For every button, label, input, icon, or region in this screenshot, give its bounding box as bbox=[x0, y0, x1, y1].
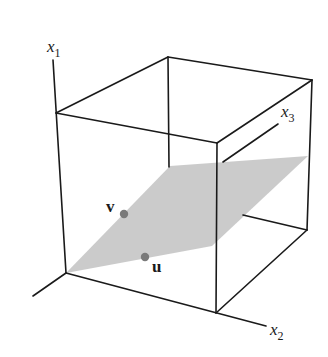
box-edge-top-left-back bbox=[56, 57, 168, 113]
box-edge-bottom-back-right bbox=[243, 215, 307, 230]
x3-label: x3 bbox=[280, 102, 295, 125]
box-edge-bottom-front-right bbox=[216, 230, 307, 313]
label-v: v bbox=[106, 197, 115, 216]
x2-axis bbox=[66, 273, 266, 326]
plane-span-diagram: x1 x3 x2 v u bbox=[0, 0, 328, 357]
box-edge-front-vertical bbox=[216, 143, 217, 313]
x2-label: x2 bbox=[269, 320, 284, 343]
x3-axis-negative bbox=[33, 273, 66, 296]
box-edge-back-vertical bbox=[168, 57, 169, 167]
x1-axis bbox=[53, 60, 66, 273]
box-edge-top-left-front bbox=[56, 113, 217, 143]
box-edge-right-vertical bbox=[307, 80, 312, 230]
x3-axis bbox=[223, 124, 278, 162]
point-u bbox=[141, 253, 149, 261]
point-v bbox=[120, 210, 128, 218]
x1-label: x1 bbox=[46, 37, 61, 60]
label-u: u bbox=[152, 257, 161, 276]
span-plane bbox=[66, 156, 308, 273]
box-edge-top-back-right bbox=[168, 57, 312, 80]
